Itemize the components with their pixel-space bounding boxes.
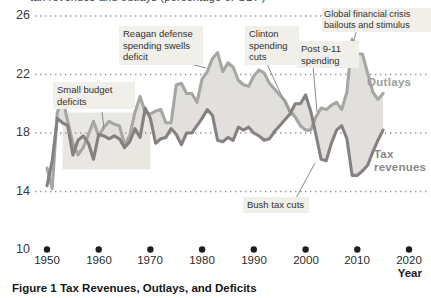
x-tick-1970: 1970 (128, 254, 172, 266)
axis-dot-2020 (406, 246, 412, 252)
x-tick-2000: 2000 (284, 254, 328, 266)
series-label-outlays: Outlays (367, 76, 411, 88)
annotation-global-financial-crisis: Global financial crisis bailouts and sti… (322, 8, 431, 32)
y-tick-26: 26 (2, 8, 30, 22)
axis-dot-2010 (354, 246, 360, 252)
axis-dot-1970 (147, 246, 153, 252)
annotation-post-911-spending: Post 9-11 spending (297, 41, 359, 68)
y-tick-18: 18 (2, 125, 30, 139)
x-tick-1980: 1980 (180, 254, 224, 266)
y-tick-14: 14 (2, 184, 30, 198)
axis-dot-1960 (96, 246, 102, 252)
x-tick-1950: 1950 (25, 254, 69, 266)
figure-tax-revenues-outlays-deficits: tax revenues and outlays (percentage of … (0, 0, 431, 298)
pointer-post911 (313, 66, 317, 112)
x-tick-2010: 2010 (335, 254, 379, 266)
pointer-bush (296, 163, 315, 198)
figure-caption: Figure 1 Tax Revenues, Outlays, and Defi… (12, 282, 257, 294)
annotation-clinton-spending-cuts: Clinton spending cuts (245, 26, 299, 65)
x-tick-1960: 1960 (77, 254, 121, 266)
x-tick-1990: 1990 (232, 254, 276, 266)
annotation-small-budget-deficits: Small budget deficits (53, 82, 135, 109)
axis-dot-1950 (44, 246, 50, 252)
axis-dot-2000 (302, 246, 308, 252)
axis-dot-1980 (199, 246, 205, 252)
x-axis-title: Year (386, 267, 422, 279)
axis-dot-1990 (251, 246, 257, 252)
x-tick-2020: 2020 (387, 254, 431, 266)
annotation-reagan-defense: Reagan defense spending swells deficit (119, 26, 203, 65)
annotation-bush-tax-cuts: Bush tax cuts (243, 197, 309, 213)
y-tick-22: 22 (2, 67, 30, 81)
series-label-tax-revenues: Tax revenues (374, 148, 422, 174)
